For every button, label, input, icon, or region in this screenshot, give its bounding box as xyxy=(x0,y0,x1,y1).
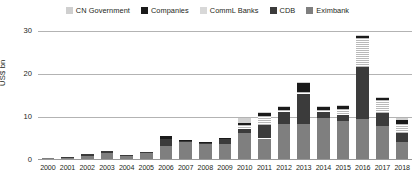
x-tick-label-2014: 2014 xyxy=(313,164,335,173)
x-tick-label-2012: 2012 xyxy=(273,164,295,173)
bar-segment-2002-eximbank xyxy=(81,156,94,159)
bar-segment-2018-companies xyxy=(396,120,409,124)
bar-segment-2018-eximbank xyxy=(396,142,409,159)
bar-segment-2017-cdb xyxy=(376,113,389,126)
bar-segment-2018-cn-government xyxy=(396,118,409,120)
legend-label-cn-government: CN Government xyxy=(76,6,130,15)
bar-segment-2017-cn-government xyxy=(376,97,389,98)
bar-segment-2006-companies xyxy=(160,136,173,139)
y-tick-label-10: 10 xyxy=(6,113,32,121)
bar-2009[interactable] xyxy=(219,138,232,159)
bar-segment-2013-cdb xyxy=(297,94,310,124)
x-tick-label-2005: 2005 xyxy=(135,164,157,173)
bar-2007[interactable] xyxy=(179,140,192,159)
legend-swatch-cdb xyxy=(270,7,277,14)
bar-2006[interactable] xyxy=(160,136,173,159)
legend-label-comml-banks: CommL Banks xyxy=(210,6,259,15)
bar-segment-2003-cdb xyxy=(101,151,114,153)
bar-segment-2010-companies xyxy=(238,123,251,125)
legend-swatch-comml-banks xyxy=(200,7,207,14)
bar-segment-2005-eximbank xyxy=(140,153,153,159)
bar-segment-2013-cn-government xyxy=(297,82,310,83)
bar-segment-2007-companies xyxy=(179,140,192,141)
legend-item-companies: Companies xyxy=(141,6,189,15)
bar-2011[interactable] xyxy=(258,112,271,159)
bar-2003[interactable] xyxy=(101,151,114,159)
bar-segment-2012-comml-banks xyxy=(278,110,291,112)
bar-2004[interactable] xyxy=(120,155,133,159)
x-tick-label-2018: 2018 xyxy=(391,164,413,173)
bar-segment-2016-companies xyxy=(356,36,369,38)
bar-segment-2008-eximbank xyxy=(199,144,212,159)
bar-2000[interactable] xyxy=(42,158,55,159)
legend-label-companies: Companies xyxy=(151,6,189,15)
bar-segment-2016-comml-banks xyxy=(356,38,369,67)
bar-2002[interactable] xyxy=(81,154,94,159)
bar-segment-2004-eximbank xyxy=(120,156,133,159)
bar-segment-2009-cdb xyxy=(219,139,232,144)
bar-segment-2006-eximbank xyxy=(160,146,173,159)
bar-2014[interactable] xyxy=(317,106,330,159)
bar-segment-2004-cdb xyxy=(120,155,133,156)
bar-segment-2009-companies xyxy=(219,138,232,139)
bar-segment-2012-companies xyxy=(278,107,291,110)
bar-segment-2011-cn-government xyxy=(258,112,271,113)
bar-2001[interactable] xyxy=(61,157,74,159)
bar-segment-2012-eximbank xyxy=(278,124,291,159)
x-tick-label-2015: 2015 xyxy=(332,164,354,173)
bar-2005[interactable] xyxy=(140,152,153,159)
x-tick-label-2008: 2008 xyxy=(194,164,216,173)
x-tick-label-2016: 2016 xyxy=(352,164,374,173)
x-tick-label-2004: 2004 xyxy=(116,164,138,173)
x-axis-line xyxy=(38,159,412,160)
bar-2012[interactable] xyxy=(278,106,291,159)
bar-2013[interactable] xyxy=(297,82,310,159)
bar-2010[interactable] xyxy=(238,118,251,159)
chart-legend: CN Government Companies CommL Banks CDB … xyxy=(0,6,415,15)
bar-2015[interactable] xyxy=(337,105,350,159)
x-tick-label-2017: 2017 xyxy=(372,164,394,173)
bar-2018[interactable] xyxy=(396,118,409,159)
bar-segment-2011-companies xyxy=(258,113,271,116)
x-tick-label-2003: 2003 xyxy=(96,164,118,173)
x-tick-label-2007: 2007 xyxy=(175,164,197,173)
legend-label-eximbank: Eximbank xyxy=(316,6,349,15)
bar-segment-2014-cn-government xyxy=(317,106,330,107)
bar-segment-2011-eximbank xyxy=(258,139,271,159)
bar-segment-2017-eximbank xyxy=(376,126,389,159)
bar-segment-2018-comml-banks xyxy=(396,124,409,133)
bar-segment-2016-cn-government xyxy=(356,35,369,36)
gridline-30 xyxy=(38,31,412,32)
stacked-bar-chart: CN Government Companies CommL Banks CDB … xyxy=(0,0,415,187)
bar-segment-2015-companies xyxy=(337,106,350,109)
legend-item-comml-banks: CommL Banks xyxy=(200,6,259,15)
bar-segment-2011-comml-banks xyxy=(258,116,271,125)
bar-segment-2010-cn-government xyxy=(238,118,251,123)
legend-swatch-cn-government xyxy=(66,7,73,14)
bar-2017[interactable] xyxy=(376,97,389,159)
bar-segment-2005-cdb xyxy=(140,152,153,153)
bar-2016[interactable] xyxy=(356,35,369,159)
bar-segment-2007-cdb xyxy=(179,141,192,142)
bar-segment-2017-comml-banks xyxy=(376,100,389,113)
legend-item-eximbank: Eximbank xyxy=(306,6,349,15)
bar-segment-2014-cdb xyxy=(317,112,330,118)
bar-segment-2008-cdb xyxy=(199,142,212,144)
x-tick-label-2001: 2001 xyxy=(57,164,79,173)
bar-segment-2013-comml-banks xyxy=(297,92,310,94)
bar-segment-2001-eximbank xyxy=(61,158,74,159)
x-tick-label-2013: 2013 xyxy=(293,164,315,173)
bar-segment-2015-cdb xyxy=(337,115,350,121)
legend-swatch-eximbank xyxy=(306,7,313,14)
x-tick-label-2011: 2011 xyxy=(254,164,276,173)
y-tick-label-0: 0 xyxy=(6,156,32,164)
x-tick-label-2006: 2006 xyxy=(155,164,177,173)
y-tick-label-30: 30 xyxy=(6,27,32,35)
bar-segment-2015-comml-banks xyxy=(337,109,350,115)
bar-2008[interactable] xyxy=(199,142,212,159)
bar-segment-2018-cdb xyxy=(396,133,409,141)
legend-item-cn-government: CN Government xyxy=(66,6,130,15)
bar-segment-2015-cn-government xyxy=(337,105,350,106)
bar-segment-2003-eximbank xyxy=(101,153,114,159)
legend-swatch-companies xyxy=(141,7,148,14)
